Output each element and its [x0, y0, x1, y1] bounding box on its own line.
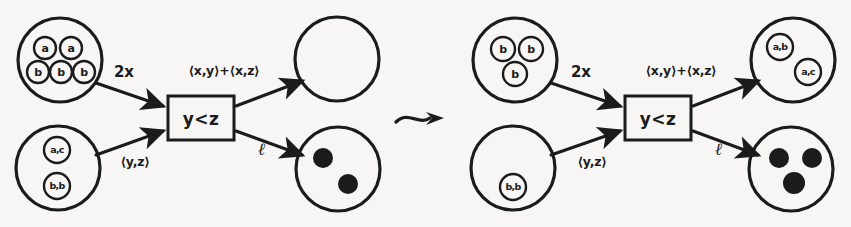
token-label: a: [67, 42, 74, 55]
transition-left[interactable]: y<z: [168, 96, 234, 140]
input-place-bottom-left[interactable]: a,c b,b: [16, 126, 100, 210]
output-place-top-left[interactable]: [295, 17, 379, 101]
figure-canvas: a a b b b: [0, 0, 851, 227]
transition-guard-label: y<z: [640, 109, 676, 129]
arc-in-bottom: [551, 131, 620, 155]
token-dot: [338, 174, 358, 194]
arc-out-top: [693, 81, 758, 106]
token-label: a: [41, 42, 48, 55]
token: b: [503, 62, 527, 86]
token: a: [60, 37, 82, 59]
arc-in-top-label: 2x: [571, 63, 591, 81]
token-label: b: [527, 43, 535, 56]
arc-in-bottom-label: ⟨y,z⟩: [120, 154, 149, 169]
token-label: b: [511, 68, 519, 81]
input-place-bottom-right[interactable]: b,b: [471, 126, 555, 210]
input-place-top-left[interactable]: a a b b b: [18, 18, 102, 102]
token: b: [27, 61, 49, 83]
token-label: a,c: [801, 66, 815, 77]
token-label: b: [499, 43, 507, 56]
token-dot: [313, 148, 333, 168]
token-label: a,b: [773, 41, 789, 52]
token-dot: [783, 172, 805, 194]
token-label: b: [34, 66, 42, 79]
token-dot: [769, 148, 789, 168]
leads-to-squiggly-arrow-icon: [396, 112, 444, 125]
arc-out-bottom: [693, 131, 758, 155]
token: b,b: [500, 174, 526, 200]
token: b,b: [44, 173, 70, 199]
arc-out-top: [236, 81, 302, 106]
output-place-bottom-right[interactable]: [749, 127, 833, 211]
input-place-top-right[interactable]: b b b: [473, 18, 557, 102]
token: b: [50, 61, 72, 83]
token-label: b,b: [505, 181, 521, 192]
arc-out-top-label: ⟨x,y⟩+⟨x,z⟩: [188, 63, 259, 78]
token-label: a,c: [50, 144, 64, 155]
arc-out-bottom-label: ℓ: [715, 139, 722, 159]
token-label: b,b: [49, 180, 65, 191]
right-net: b b b b,b: [471, 18, 835, 211]
transition-guard-label: y<z: [183, 109, 219, 129]
arc-out-bottom-label: ℓ: [258, 139, 265, 159]
arc-in-top-label: 2x: [114, 63, 134, 81]
arc-out-top-label: ⟨x,y⟩+⟨x,z⟩: [645, 63, 716, 78]
arc-in-top: [551, 83, 620, 106]
token: b: [73, 61, 95, 83]
arc-in-bottom: [96, 131, 163, 155]
token: b: [519, 37, 543, 61]
token-label: b: [80, 66, 88, 79]
token: b: [491, 37, 515, 61]
left-net: a a b b b: [16, 17, 380, 211]
token: a,c: [795, 59, 821, 85]
token: a,b: [767, 34, 793, 60]
output-place-bottom-left[interactable]: [296, 127, 380, 211]
token-label: b: [57, 66, 65, 79]
token: a,c: [44, 137, 70, 163]
transition-right[interactable]: y<z: [625, 96, 691, 140]
token-dot: [802, 148, 822, 168]
output-place-top-right[interactable]: a,b a,c: [751, 18, 835, 102]
arc-in-top: [96, 83, 163, 106]
arc-in-bottom-label: ⟨y,z⟩: [577, 154, 606, 169]
token: a: [34, 37, 56, 59]
arc-out-bottom: [236, 131, 302, 155]
